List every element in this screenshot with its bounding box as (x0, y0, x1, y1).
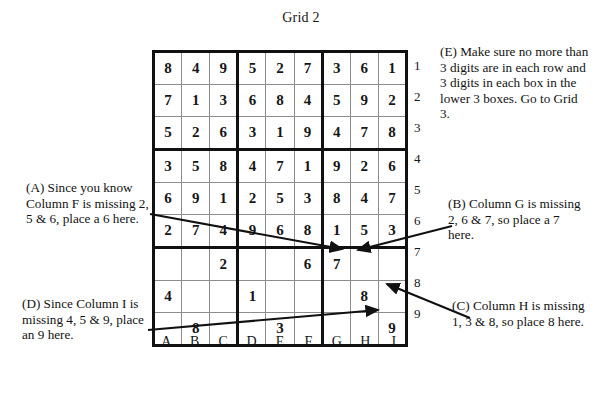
cell-F2[interactable]: 4 (294, 85, 322, 117)
table-row: 3 5 8 4 7 1 9 2 6 (154, 150, 407, 183)
row-label-9: 9 (414, 299, 430, 330)
cell-B8[interactable] (182, 281, 210, 313)
cell-D2[interactable]: 6 (238, 85, 266, 117)
table-row: 4 1 8 (154, 281, 407, 313)
cell-I3[interactable]: 8 (378, 117, 406, 150)
cell-A2[interactable]: 7 (154, 85, 182, 117)
cell-E7[interactable] (266, 248, 294, 281)
cell-F8[interactable] (294, 281, 322, 313)
cell-F3[interactable]: 9 (294, 117, 322, 150)
cell-F4[interactable]: 1 (294, 150, 322, 183)
cell-D5[interactable]: 2 (238, 183, 266, 215)
cell-G1[interactable]: 3 (322, 52, 350, 85)
cell-A6[interactable]: 2 (154, 215, 182, 248)
sudoku-grid-body: 8 4 9 5 2 7 3 6 1 7 1 3 6 8 4 5 9 2 (154, 52, 407, 346)
cell-D3[interactable]: 3 (238, 117, 266, 150)
cell-C6[interactable]: 4 (210, 215, 238, 248)
cell-C8[interactable] (210, 281, 238, 313)
cell-G5[interactable]: 8 (322, 183, 350, 215)
column-label-b: B (180, 334, 208, 350)
table-row: 5 2 6 3 1 9 4 7 8 (154, 117, 407, 150)
column-label-g: G (323, 334, 351, 350)
cell-H8[interactable]: 8 (350, 281, 378, 313)
cell-D4[interactable]: 4 (238, 150, 266, 183)
annotation-e: (E) Make sure no more than 3 digits are … (440, 44, 590, 122)
cell-E1[interactable]: 2 (266, 52, 294, 85)
cell-B4[interactable]: 5 (182, 150, 210, 183)
cell-H7[interactable] (350, 248, 378, 281)
cell-I5[interactable]: 7 (378, 183, 406, 215)
cell-H4[interactable]: 2 (350, 150, 378, 183)
cell-B3[interactable]: 2 (182, 117, 210, 150)
table-row: 6 9 1 2 5 3 8 4 7 (154, 183, 407, 215)
row-label-6: 6 (414, 206, 430, 237)
annotation-b: (B) Column G is missing 2, 6 & 7, so pla… (448, 196, 588, 243)
cell-F5[interactable]: 3 (294, 183, 322, 215)
cell-G6[interactable]: 1 (322, 215, 350, 248)
cell-C4[interactable]: 8 (210, 150, 238, 183)
cell-A7[interactable] (154, 248, 182, 281)
cell-G2[interactable]: 5 (322, 85, 350, 117)
row-label-5: 5 (414, 174, 430, 205)
cell-H1[interactable]: 6 (350, 52, 378, 85)
cell-H6[interactable]: 5 (350, 215, 378, 248)
row-label-7: 7 (414, 237, 430, 268)
cell-G8[interactable] (322, 281, 350, 313)
cell-H3[interactable]: 7 (350, 117, 378, 150)
cell-I2[interactable]: 2 (378, 85, 406, 117)
cell-D1[interactable]: 5 (238, 52, 266, 85)
cell-C3[interactable]: 6 (210, 117, 238, 150)
cell-E8[interactable] (266, 281, 294, 313)
column-label-a: A (152, 334, 180, 350)
cell-H5[interactable]: 4 (350, 183, 378, 215)
cell-A5[interactable]: 6 (154, 183, 182, 215)
row-label-8: 8 (414, 268, 430, 299)
column-label-h: H (351, 334, 379, 350)
cell-D8[interactable]: 1 (238, 281, 266, 313)
page-title: Grid 2 (0, 10, 602, 26)
cell-A1[interactable]: 8 (154, 52, 182, 85)
cell-D7[interactable] (238, 248, 266, 281)
cell-B1[interactable]: 4 (182, 52, 210, 85)
cell-C1[interactable]: 9 (210, 52, 238, 85)
cell-E6[interactable]: 6 (266, 215, 294, 248)
cell-B5[interactable]: 9 (182, 183, 210, 215)
cell-A3[interactable]: 5 (154, 117, 182, 150)
column-label-c: C (209, 334, 237, 350)
cell-I8[interactable] (378, 281, 406, 313)
column-label-i: I (380, 334, 408, 350)
cell-D6[interactable]: 9 (238, 215, 266, 248)
annotation-c: (C) Column H is missing 1, 3 & 8, so pla… (452, 298, 594, 329)
cell-E3[interactable]: 1 (266, 117, 294, 150)
row-label-2: 2 (414, 81, 430, 112)
cell-B6[interactable]: 7 (182, 215, 210, 248)
cell-E4[interactable]: 7 (266, 150, 294, 183)
row-labels: 1 2 3 4 5 6 7 8 9 (414, 50, 430, 330)
cell-I1[interactable]: 1 (378, 52, 406, 85)
cell-C5[interactable]: 1 (210, 183, 238, 215)
sudoku-grid[interactable]: 8 4 9 5 2 7 3 6 1 7 1 3 6 8 4 5 9 2 (152, 50, 408, 347)
cell-F1[interactable]: 7 (294, 52, 322, 85)
cell-F7[interactable]: 6 (294, 248, 322, 281)
cell-G4[interactable]: 9 (322, 150, 350, 183)
table-row: 8 4 9 5 2 7 3 6 1 (154, 52, 407, 85)
table-row: 7 1 3 6 8 4 5 9 2 (154, 85, 407, 117)
cell-B7[interactable] (182, 248, 210, 281)
cell-E5[interactable]: 5 (266, 183, 294, 215)
cell-G3[interactable]: 4 (322, 117, 350, 150)
cell-I7[interactable] (378, 248, 406, 281)
cell-I4[interactable]: 6 (378, 150, 406, 183)
cell-I6[interactable]: 3 (378, 215, 406, 248)
column-label-f: F (294, 334, 322, 350)
cell-C2[interactable]: 3 (210, 85, 238, 117)
cell-B2[interactable]: 1 (182, 85, 210, 117)
table-row: 2 7 4 9 6 8 1 5 3 (154, 215, 407, 248)
cell-G7[interactable]: 7 (322, 248, 350, 281)
cell-A8[interactable]: 4 (154, 281, 182, 313)
cell-H2[interactable]: 9 (350, 85, 378, 117)
cell-C7[interactable]: 2 (210, 248, 238, 281)
table-row: 2 6 7 (154, 248, 407, 281)
cell-A4[interactable]: 3 (154, 150, 182, 183)
cell-E2[interactable]: 8 (266, 85, 294, 117)
cell-F6[interactable]: 8 (294, 215, 322, 248)
